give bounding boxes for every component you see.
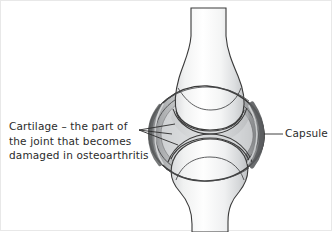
- capsule-label: Capsule: [285, 126, 328, 141]
- cartilage-label-line-1: Cartilage – the part of: [9, 119, 149, 134]
- illustration-page: Cartilage – the part of the joint that b…: [0, 0, 333, 232]
- cartilage-label-line-3: damaged in osteoarthritis: [9, 148, 149, 163]
- cartilage-label: Cartilage – the part of the joint that b…: [9, 119, 149, 163]
- cartilage-label-line-2: the joint that becomes: [9, 134, 149, 149]
- lower-bone: [171, 139, 248, 232]
- joint-diagram: [0, 0, 333, 232]
- upper-bone: [175, 8, 244, 131]
